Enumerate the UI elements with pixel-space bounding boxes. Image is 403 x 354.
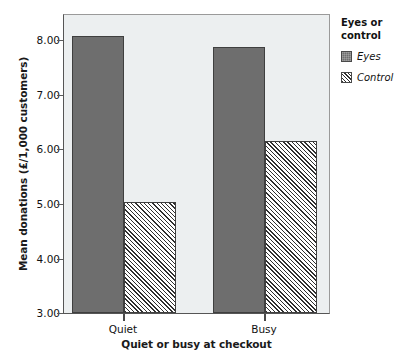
- bar-quiet-eyes: [72, 36, 124, 313]
- diagonal-hatch-square-icon: [341, 72, 352, 83]
- bars-layer: [64, 15, 329, 313]
- y-tick-label-3: 3.00: [20, 308, 60, 318]
- legend-item-label-control: Control: [357, 72, 393, 83]
- legend: Eyes or control Eyes Control: [341, 17, 403, 93]
- x-tick-label-quiet: Quiet: [78, 323, 168, 335]
- y-axis-title: Mean donations (£/1,000 customers): [14, 14, 32, 314]
- y-tick-label-6: 6.00: [20, 144, 60, 154]
- bar-chart: Mean donations (£/1,000 customers) 8.00 …: [0, 0, 403, 354]
- x-tick-mark-quiet: [123, 314, 125, 321]
- bar-busy-control: [265, 141, 317, 313]
- legend-item-control[interactable]: Control: [341, 72, 403, 83]
- y-tick-label-5: 5.00: [20, 199, 60, 209]
- y-tick-label-4: 4.00: [20, 254, 60, 264]
- y-tick-label-7: 7.00: [20, 90, 60, 100]
- y-tick-label-8: 8.00: [20, 35, 60, 45]
- x-tick-mark-busy: [264, 314, 266, 321]
- legend-item-eyes[interactable]: Eyes: [341, 51, 403, 62]
- x-axis-title: Quiet or busy at checkout: [63, 338, 330, 350]
- bar-busy-eyes: [213, 47, 265, 313]
- legend-items: Eyes Control: [341, 51, 403, 83]
- plot-area: [63, 14, 330, 314]
- bar-quiet-control: [124, 202, 176, 313]
- legend-title: Eyes or control: [341, 17, 403, 42]
- solid-dark-square-icon: [341, 51, 352, 62]
- legend-item-label-eyes: Eyes: [357, 51, 381, 62]
- x-tick-label-busy: Busy: [219, 323, 309, 335]
